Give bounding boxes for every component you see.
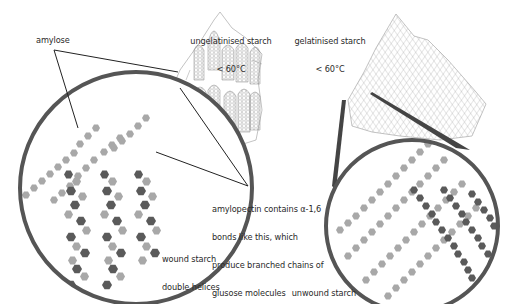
amylopectin-line-1: amylopectin contains α-1,6 bbox=[212, 205, 324, 214]
unwound-line-1: unwound starch bbox=[276, 289, 356, 298]
wound-line-1: wound starch bbox=[162, 255, 220, 264]
ungelatinised-title-text: ungelatinised starch bbox=[166, 37, 296, 46]
amylose-label: amylose bbox=[36, 36, 70, 45]
amylopectin-line-2: bonds like this, which bbox=[212, 233, 324, 242]
starch-gelatinisation-diagram: ungelatinised starch < 60°C gelatinised … bbox=[0, 0, 510, 304]
gelatinised-temp-text: < 60°C bbox=[290, 65, 370, 74]
unwound-helices-label: unwound starch double helices bbox=[276, 270, 356, 304]
ungelatinised-temp-text: < 60°C bbox=[166, 65, 296, 74]
gelatinised-title-text: gelatinised starch bbox=[290, 37, 370, 46]
amylose-leader bbox=[54, 50, 178, 72]
wound-line-2: double helices bbox=[162, 283, 220, 292]
wound-helices-label: wound starch double helices bbox=[162, 236, 220, 304]
gelatinised-title: gelatinised starch < 60°C bbox=[290, 18, 370, 93]
ungelatinised-title: ungelatinised starch < 60°C bbox=[166, 18, 296, 93]
